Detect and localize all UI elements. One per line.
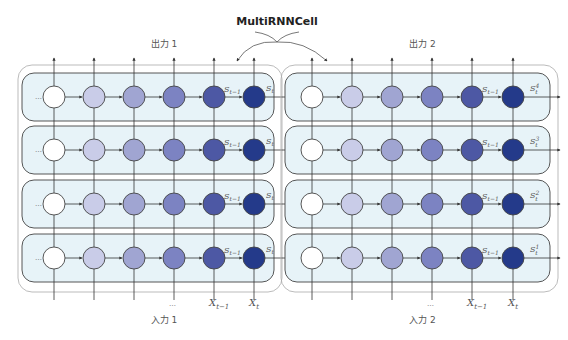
- rnn-cell: [341, 86, 363, 108]
- input-x-label: Xt−1: [466, 297, 487, 311]
- rnn-cell: [421, 86, 443, 108]
- prev-state-subscript: t−1: [487, 141, 498, 148]
- state-in-ellipsis: …: [35, 254, 42, 262]
- input-x-label: Xt: [507, 297, 518, 311]
- rnn-cell: [83, 193, 105, 215]
- prev-state-subscript: t−1: [229, 195, 240, 202]
- rnn-cell: [421, 193, 443, 215]
- input-label: 入力 1: [151, 314, 178, 325]
- rnn-cell: [502, 86, 524, 108]
- rnn-cell: [163, 139, 185, 161]
- rnn-cell: [421, 139, 443, 161]
- rnn-cell: [43, 193, 65, 215]
- rnn-cell: [123, 86, 145, 108]
- rnn-cell: [163, 193, 185, 215]
- output-label: 出力 1: [151, 38, 178, 49]
- multirnncell-diagram: MultiRNNCell 出力 1入力 1…St−1St…St−1St…St−1…: [0, 0, 568, 340]
- rnn-cell: [163, 86, 185, 108]
- rnn-cell: [203, 247, 225, 269]
- group-1: 出力 1入力 1…St−1St…St−1St…St−1St…St−1St…Xt−…: [18, 38, 300, 325]
- diagram-title: MultiRNNCell: [236, 15, 318, 28]
- input-x-subscript: t−1: [474, 303, 487, 311]
- rnn-cell: [123, 139, 145, 161]
- rnn-cell: [502, 139, 524, 161]
- rnn-cell: [341, 247, 363, 269]
- rnn-cell: [301, 86, 323, 108]
- rnn-cell: [381, 86, 403, 108]
- rnn-cell: [301, 247, 323, 269]
- prev-state-subscript: t−1: [229, 141, 240, 148]
- state-in-ellipsis: …: [35, 146, 42, 154]
- rnn-cell: [381, 193, 403, 215]
- rnn-cell: [163, 247, 185, 269]
- input-label: 入力 2: [409, 314, 436, 325]
- rnn-cell: [83, 86, 105, 108]
- rnn-cell: [461, 139, 483, 161]
- rnn-cell: [123, 247, 145, 269]
- output-label: 出力 2: [409, 38, 436, 49]
- title-brace: [255, 32, 299, 42]
- rnn-cell: [203, 86, 225, 108]
- rnn-cell: [381, 247, 403, 269]
- brace-arrow-left: [237, 42, 277, 61]
- prev-state-subscript: t−1: [487, 88, 498, 95]
- rnn-cell: [301, 139, 323, 161]
- rnn-cell: [243, 86, 265, 108]
- input-x-label: Xt−1: [208, 297, 229, 311]
- input-x-subscript: t: [256, 303, 259, 311]
- state-in-ellipsis: …: [35, 200, 42, 208]
- rnn-cell: [461, 193, 483, 215]
- rnn-cell: [341, 139, 363, 161]
- rnn-cell: [83, 139, 105, 161]
- rnn-cell: [301, 193, 323, 215]
- prev-state-subscript: t−1: [229, 249, 240, 256]
- rnn-cell: [243, 193, 265, 215]
- prev-state-subscript: t−1: [229, 88, 240, 95]
- rnn-cell: [421, 247, 443, 269]
- rnn-cell: [203, 193, 225, 215]
- rnn-cell: [381, 139, 403, 161]
- rnn-cell: [43, 139, 65, 161]
- input-x-subscript: t: [515, 303, 518, 311]
- group-2: 出力 2入力 2St−1S4tSt−1S3tSt−1S2tSt−1S1t…Xt−…: [281, 38, 560, 325]
- rnn-cell: [341, 193, 363, 215]
- input-x-label: Xt: [248, 297, 259, 311]
- rnn-cell: [43, 86, 65, 108]
- brace-arrow-right: [277, 42, 327, 61]
- input-x-subscript: t−1: [216, 303, 229, 311]
- rnn-cell: [461, 86, 483, 108]
- state-in-ellipsis: …: [35, 93, 42, 101]
- rnn-cell: [83, 247, 105, 269]
- rnn-cell: [461, 247, 483, 269]
- rnn-cell: [203, 139, 225, 161]
- input-x-label: …: [427, 300, 434, 308]
- input-x-label: …: [169, 300, 176, 308]
- rnn-cell: [502, 247, 524, 269]
- rnn-cell: [43, 247, 65, 269]
- prev-state-subscript: t−1: [487, 195, 498, 202]
- rnn-cell: [243, 247, 265, 269]
- prev-state-subscript: t−1: [487, 249, 498, 256]
- rnn-cell: [502, 193, 524, 215]
- rnn-cell: [123, 193, 145, 215]
- rnn-cell: [243, 139, 265, 161]
